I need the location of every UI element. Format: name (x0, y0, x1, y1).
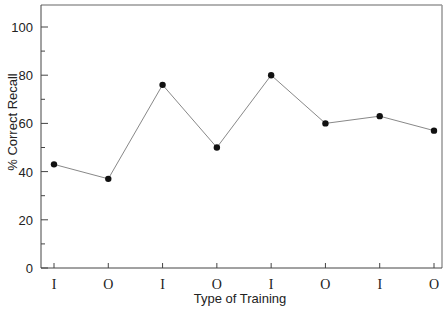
x-tick-label: I (52, 277, 57, 292)
x-axis-title: Type of Training (194, 291, 287, 306)
y-axis-title: % Correct Recall (5, 73, 20, 171)
y-tick-label: 40 (19, 165, 33, 180)
y-tick-label: 100 (11, 20, 33, 35)
data-point-marker (51, 161, 57, 167)
x-tick-label: O (212, 277, 222, 292)
x-axis-ticks: IOIOIOIO (52, 263, 439, 292)
data-point-marker (377, 113, 383, 119)
x-tick-label: I (269, 277, 274, 292)
data-point-marker (159, 82, 165, 88)
data-point-marker (431, 127, 437, 133)
x-tick-label: O (103, 277, 113, 292)
data-series (51, 72, 437, 182)
x-tick-label: O (429, 277, 439, 292)
x-tick-label: I (377, 277, 382, 292)
series-line (54, 75, 434, 179)
x-tick-label: O (320, 277, 330, 292)
y-tick-label: 0 (26, 261, 33, 276)
y-tick-label: 80 (19, 68, 33, 83)
data-point-marker (322, 120, 328, 126)
y-tick-label: 60 (19, 116, 33, 131)
x-tick-label: I (160, 277, 165, 292)
y-tick-label: 20 (19, 213, 33, 228)
data-point-marker (105, 176, 111, 182)
data-point-marker (214, 144, 220, 150)
data-point-marker (268, 72, 274, 78)
line-chart: 020406080100 IOIOIOIO Type of Training %… (0, 0, 445, 309)
